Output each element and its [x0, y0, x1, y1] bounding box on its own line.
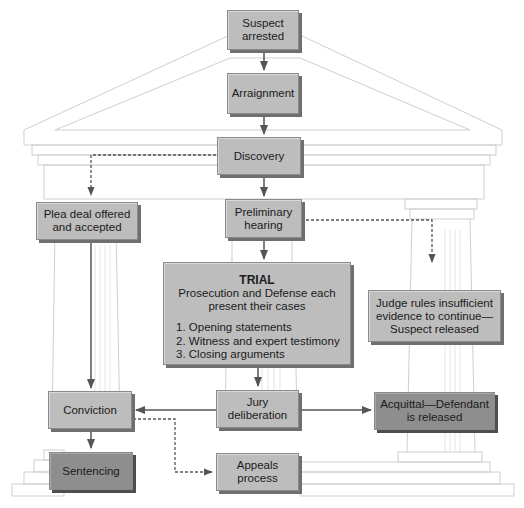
node-trial: TRIAL Prosecution and Defense each prese…: [163, 262, 351, 365]
node-plea-deal: Plea deal offered and accepted: [36, 202, 138, 240]
edge-discovery-plea: [91, 155, 216, 195]
trial-subtitle: Prosecution and Defense each: [178, 287, 335, 300]
node-label: Preliminary: [235, 206, 293, 219]
node-label: deliberation: [228, 409, 287, 422]
node-label: process: [237, 472, 277, 485]
trial-step: 3. Closing arguments: [176, 348, 340, 362]
edge-conviction-appeals: [133, 419, 212, 472]
edge-preliminary-judge: [306, 220, 432, 262]
node-appeals: Appeals process: [216, 453, 299, 491]
node-label: arrested: [242, 30, 284, 43]
node-label: evidence to continue—: [376, 310, 493, 323]
node-label: Acquittal—Defendant: [380, 398, 489, 411]
node-label: and accepted: [52, 221, 121, 234]
node-preliminary-hearing: Preliminary hearing: [225, 199, 302, 238]
node-label: is released: [407, 411, 463, 424]
trial-step: 1. Opening statements: [176, 321, 340, 335]
node-judge-rules: Judge rules insufficient evidence to con…: [368, 290, 501, 342]
node-label: Sentencing: [62, 465, 120, 478]
node-arraignment: Arraignment: [227, 73, 299, 114]
node-label: Suspect released: [390, 323, 479, 336]
trial-title: TRIAL: [239, 273, 274, 287]
node-jury-deliberation: Jury deliberation: [216, 390, 299, 428]
trial-steps: 1. Opening statements 2. Witness and exp…: [164, 321, 340, 362]
node-label: Arraignment: [232, 87, 295, 100]
node-label: Jury: [247, 396, 269, 409]
trial-step: 2. Witness and expert testimony: [176, 335, 340, 349]
node-label: Discovery: [234, 150, 284, 163]
node-conviction: Conviction: [48, 391, 132, 429]
node-discovery: Discovery: [217, 137, 301, 175]
node-label: Judge rules insufficient: [376, 297, 493, 310]
node-label: Plea deal offered: [44, 208, 131, 221]
node-label: Suspect: [242, 17, 284, 30]
node-label: Conviction: [63, 404, 117, 417]
node-acquittal: Acquittal—Defendant is released: [374, 392, 495, 430]
node-suspect-arrested: Suspect arrested: [227, 10, 299, 50]
trial-subtitle: present their cases: [208, 300, 305, 313]
node-label: hearing: [244, 219, 282, 232]
node-sentencing: Sentencing: [49, 452, 133, 490]
node-label: Appeals: [237, 459, 279, 472]
